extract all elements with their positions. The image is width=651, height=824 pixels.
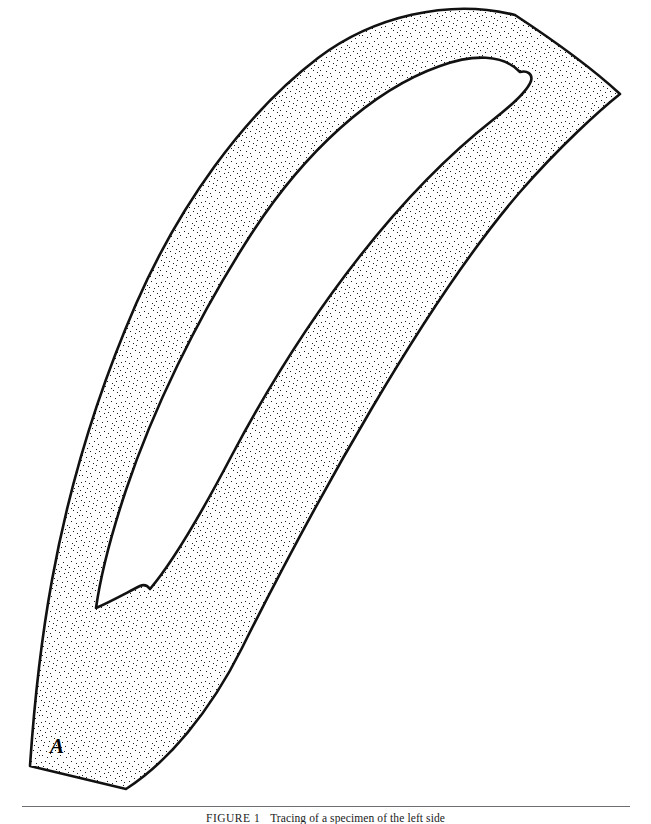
- caption-figure-number: FIGURE 1: [206, 812, 260, 824]
- caption-body-text: Tracing of a specimen of the left side: [270, 812, 445, 824]
- caption-divider-rule: [22, 806, 630, 807]
- band-shape: [30, 9, 620, 789]
- figure-drawing-area: A: [0, 0, 651, 806]
- figure-svg: [0, 0, 651, 806]
- figure-caption-text: FIGURE 1Tracing of a specimen of the lef…: [0, 812, 651, 824]
- band-outline-path: [30, 9, 620, 789]
- figure-part-label-a: A: [50, 736, 64, 757]
